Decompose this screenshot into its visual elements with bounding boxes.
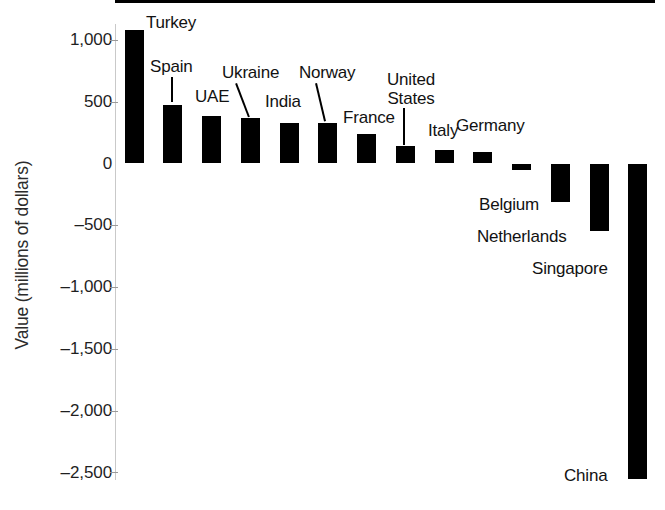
bar-label-france: France: [343, 108, 395, 127]
y-tick-label: –2,000: [0, 401, 112, 421]
bar-netherlands[interactable]: [551, 164, 570, 202]
leader-line-spain: [171, 77, 173, 102]
bar-label-italy: Italy: [428, 121, 458, 140]
y-tick-mark: [110, 349, 118, 350]
bar-label-turkey: Turkey: [146, 13, 196, 32]
bar-label-singapore: Singapore: [532, 259, 608, 278]
bar-label-norway: Norway: [299, 63, 355, 82]
bar-ukraine[interactable]: [241, 118, 260, 163]
bar-label-line-1: United: [387, 70, 435, 89]
y-tick-label: –2,500: [0, 463, 112, 483]
bar-label-uae: UAE: [195, 87, 229, 106]
bar-turkey[interactable]: [125, 30, 144, 163]
bar-france[interactable]: [357, 134, 376, 164]
bar-united-states[interactable]: [396, 146, 415, 163]
y-tick-label: 0: [0, 154, 112, 174]
bar-singapore[interactable]: [590, 164, 609, 232]
y-tick-label: 500: [0, 92, 112, 112]
y-tick-mark: [110, 472, 118, 473]
leader-line-norway: [315, 83, 326, 121]
y-tick-label: –500: [0, 215, 112, 235]
leader-line-united-states: [403, 108, 405, 145]
zero-baseline: [115, 0, 655, 3]
bar-norway[interactable]: [318, 123, 337, 163]
bar-label-belgium: Belgium: [479, 195, 539, 214]
leader-line-ukraine: [236, 83, 250, 118]
y-tick-mark: [110, 40, 118, 41]
y-tick-label: –1,500: [0, 339, 112, 359]
y-tick-mark: [110, 411, 118, 412]
y-tick-label: –1,000: [0, 277, 112, 297]
bar-belgium[interactable]: [512, 164, 531, 170]
bar-label-spain: Spain: [150, 57, 192, 76]
y-axis-title: Value (millions of dollars): [0, 0, 44, 510]
bar-spain[interactable]: [163, 105, 182, 163]
bar-label-ukraine: Ukraine: [222, 63, 279, 82]
bar-label-india: India: [265, 92, 301, 111]
bar-label-united-states: UnitedStates: [387, 70, 435, 108]
bar-uae[interactable]: [202, 116, 221, 164]
bar-label-line-2: States: [387, 89, 435, 108]
bar-china[interactable]: [628, 164, 647, 479]
bar-italy[interactable]: [435, 150, 454, 164]
bar-label-china: China: [564, 466, 607, 485]
bar-india[interactable]: [280, 123, 299, 164]
bar-germany[interactable]: [473, 152, 492, 164]
y-tick-mark: [110, 287, 118, 288]
y-tick-mark: [110, 225, 118, 226]
bar-label-netherlands: Netherlands: [477, 227, 566, 246]
y-tick-label: 1,000: [0, 30, 112, 50]
bar-label-germany: Germany: [456, 116, 525, 135]
bar-chart: Value (millions of dollars) 1,0005000–50…: [0, 0, 665, 510]
y-tick-mark: [110, 102, 118, 103]
